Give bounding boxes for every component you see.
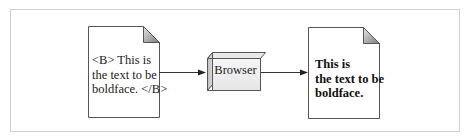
output-line: This is — [315, 57, 384, 72]
output-line: the text to be — [315, 72, 384, 87]
source-line: <B> This is — [92, 53, 167, 68]
output-line: boldface. — [315, 86, 384, 101]
browser-label: Browser — [210, 63, 261, 78]
arrow-to-output-icon — [261, 70, 308, 76]
source-document-text: <B> This isthe text to beboldface. </B> — [92, 53, 167, 97]
output-document-text: This isthe text to beboldface. — [315, 57, 384, 101]
source-line: boldface. </B> — [92, 82, 167, 97]
source-line: the text to be — [92, 68, 167, 83]
